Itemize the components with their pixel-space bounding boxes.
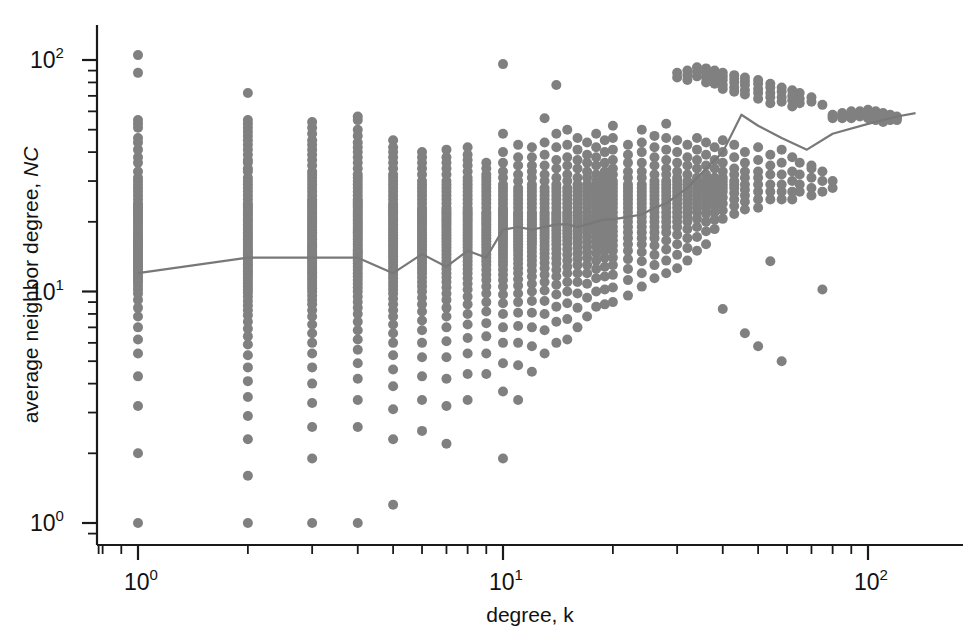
data-point: [672, 230, 682, 240]
data-point: [133, 448, 143, 458]
data-point: [513, 297, 523, 307]
data-point: [243, 362, 253, 372]
data-point: [243, 376, 253, 386]
data-point: [551, 142, 561, 152]
data-point: [353, 518, 363, 528]
data-point: [682, 224, 692, 234]
data-point: [817, 187, 827, 197]
data-point: [417, 352, 427, 362]
data-point: [649, 131, 659, 141]
data-point: [661, 119, 671, 129]
data-point: [133, 311, 143, 321]
data-point: [623, 254, 633, 264]
data-point: [817, 176, 827, 186]
data-point: [608, 145, 618, 155]
data-point: [441, 374, 451, 384]
x-axis-title: degree, k: [486, 603, 574, 626]
data-point: [573, 163, 583, 173]
data-point: [718, 304, 728, 314]
data-point: [795, 187, 805, 197]
data-point: [527, 296, 537, 306]
data-point: [623, 275, 633, 285]
data-point: [672, 73, 682, 83]
data-point: [243, 434, 253, 444]
data-point: [740, 328, 750, 338]
data-point: [765, 170, 775, 180]
data-point: [718, 158, 728, 168]
data-point: [388, 365, 398, 375]
data-point: [682, 140, 692, 150]
data-point: [540, 286, 550, 296]
data-point: [573, 277, 583, 287]
data-point: [608, 260, 618, 270]
data-point: [623, 264, 633, 274]
data-point: [388, 328, 398, 338]
data-point: [661, 236, 671, 246]
data-point: [729, 140, 739, 150]
data-point: [753, 203, 763, 213]
data-point: [513, 338, 523, 348]
data-point: [562, 314, 572, 324]
data-point: [682, 161, 692, 171]
data-point: [307, 338, 317, 348]
data-point: [307, 518, 317, 528]
data-point: [692, 232, 702, 242]
data-point: [718, 214, 728, 224]
data-point: [692, 133, 702, 143]
x-axis-ticks: [99, 545, 868, 560]
data-point: [481, 369, 491, 379]
data-point: [388, 500, 398, 510]
data-point: [463, 299, 473, 309]
data-point: [562, 268, 572, 278]
data-point: [740, 158, 750, 168]
data-point: [388, 404, 398, 414]
data-point: [353, 345, 363, 355]
data-point: [740, 147, 750, 157]
data-point: [806, 161, 816, 171]
data-point: [795, 170, 805, 180]
data-point: [701, 150, 711, 160]
data-point: [828, 113, 838, 123]
data-point: [608, 133, 618, 143]
data-point: [672, 239, 682, 249]
data-point: [498, 290, 508, 300]
data-point: [729, 209, 739, 219]
data-point: [765, 98, 775, 108]
data-point: [353, 335, 363, 345]
data-point: [513, 308, 523, 318]
data-point: [527, 341, 537, 351]
data-point: [828, 183, 838, 193]
data-point: [353, 422, 363, 432]
data-point: [133, 401, 143, 411]
data-point: [441, 322, 451, 332]
data-points-layer: [133, 50, 902, 528]
data-point: [817, 100, 827, 110]
data-point: [307, 379, 317, 389]
data-point: [718, 84, 728, 94]
data-point: [623, 291, 633, 301]
data-point: [481, 306, 491, 316]
data-point: [481, 318, 491, 328]
y-axis-ticks: [82, 60, 97, 534]
data-point: [637, 256, 647, 266]
data-point: [243, 518, 253, 528]
data-point: [672, 158, 682, 168]
data-point: [661, 256, 671, 266]
data-point: [682, 233, 692, 243]
x-tick-label: 101: [489, 566, 523, 595]
data-point: [637, 282, 647, 292]
data-point: [307, 398, 317, 408]
data-point: [441, 401, 451, 411]
data-point: [353, 115, 363, 125]
data-point: [243, 340, 253, 350]
data-point: [551, 163, 561, 173]
data-point: [133, 123, 143, 133]
data-point: [637, 138, 647, 148]
data-point: [513, 140, 523, 150]
data-point: [661, 268, 671, 278]
data-point: [498, 358, 508, 368]
data-point: [527, 367, 537, 377]
data-point: [133, 518, 143, 528]
data-point: [562, 335, 572, 345]
data-point: [701, 226, 711, 236]
